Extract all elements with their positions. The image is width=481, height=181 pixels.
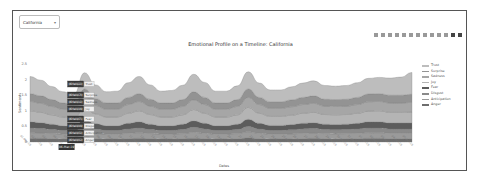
tooltip-label: Sadness <box>86 100 98 104</box>
y-tick-label: 2 <box>25 78 27 82</box>
tooltip-label: Joy <box>85 107 91 111</box>
hover-tooltip-disgust: (06-Mar-19, 0.49)Disgust <box>68 123 97 129</box>
tooltip-label: Anticipation <box>86 131 103 135</box>
hover-tooltip-anger: (06-Mar-19, 0.12)Anger <box>68 137 95 143</box>
hover-x-label: 06-Mar-19 <box>59 144 75 150</box>
tooltip-label: Anger <box>86 138 95 142</box>
tooltip-value: (06-Mar-19, 1.09) <box>69 107 83 111</box>
y-tick-label: 2.5 <box>21 62 27 66</box>
tooltip-value: (06-Mar-19, 1.42) <box>69 100 83 104</box>
tooltip-label: Disgust <box>86 124 97 128</box>
tooltip-value: (06-Mar-19, 0.12) <box>69 138 83 142</box>
x-axis-title: Dates <box>219 164 229 168</box>
y-tick-label: 1.5 <box>21 93 27 97</box>
tooltip-value: (06-Mar-19, 0.71) <box>69 117 83 121</box>
hover-tooltip-surprise: (06-Mar-19, 1.70)Surprise <box>68 92 98 98</box>
y-tick-label: 0.5 <box>21 124 27 128</box>
stacked-area-plot[interactable]: 00.511.522.5Sentiments01-Mar-1902-Mar-19… <box>0 0 481 181</box>
hover-tooltip-trust: (06-Mar-19, 2.22)Trust <box>68 81 95 87</box>
y-tick-label: 1 <box>25 109 27 113</box>
tooltip-value: (06-Mar-19, 1.70) <box>69 93 83 97</box>
hover-tooltip-joy: (06-Mar-19, 1.09)Joy <box>68 106 95 112</box>
tooltip-value: (06-Mar-19, 2.22) <box>69 82 83 86</box>
hover-tooltip-sadness: (06-Mar-19, 1.42)Sadness <box>68 99 98 105</box>
tooltip-label: Surprise <box>86 93 98 97</box>
hover-x-value: 06-Mar-19 <box>59 145 74 149</box>
hover-tooltip-fear: (06-Mar-19, 0.71)Fear <box>68 116 95 122</box>
tooltip-value: (06-Mar-19, 0.32) <box>69 131 83 135</box>
tooltip-label: Fear <box>86 117 93 121</box>
tooltip-label: Trust <box>85 82 94 86</box>
y-axis-title: Sentiments <box>18 93 22 113</box>
tooltip-value: (06-Mar-19, 0.49) <box>69 124 83 128</box>
